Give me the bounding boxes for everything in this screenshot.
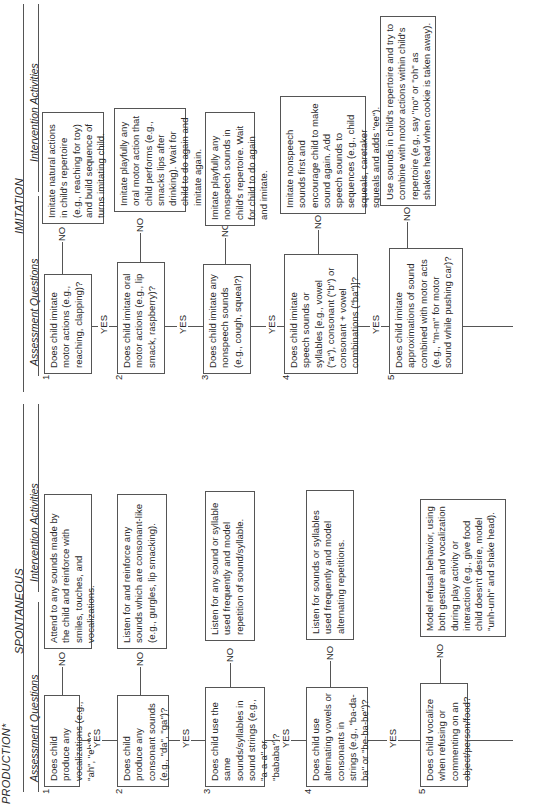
yes-label: YES — [91, 728, 102, 749]
question-number: 4 — [280, 375, 291, 380]
no-label: NO — [312, 214, 323, 230]
spontaneous-question-3: Does child use the same sounds/syllables… — [205, 687, 265, 787]
yes-label: YES — [387, 728, 398, 749]
imitation-question-2: Does child imitate oral motor actions (e… — [117, 262, 165, 374]
imitation-activity-3: Imitate playfully any nonspeech sounds i… — [205, 112, 255, 226]
question-number: 2 — [113, 789, 124, 794]
imitation-question-3: Does child imitate any nonspeech sounds … — [203, 264, 251, 374]
continue-connector — [468, 740, 513, 741]
question-number: 4 — [302, 789, 313, 794]
flowchart-page: PRODUCTION* SPONTANEOUS Assessment Quest… — [0, 0, 543, 804]
section-rule — [23, 404, 24, 792]
spontaneous-question-5: Does child vocalize when refusing or com… — [420, 683, 468, 787]
yes-label: YES — [280, 728, 291, 749]
question-number: 1 — [40, 375, 51, 380]
spontaneous-question-2: Does child produce any consonant sounds … — [117, 695, 169, 787]
spontaneous-question-4: Does child use alternating vowels or con… — [306, 687, 368, 787]
no-label: NO — [224, 647, 235, 663]
imitation-activity-5: Use sounds in child's repertoire and try… — [380, 16, 436, 206]
question-number: 5 — [416, 789, 427, 794]
yes-label: YES — [177, 314, 188, 335]
imitation-question-4: Does child imitate speech sounds or syll… — [284, 254, 358, 374]
no-label: NO — [434, 643, 445, 659]
imitation-question-5: Does child imitate approximations of sou… — [389, 248, 463, 374]
no-label: NO — [401, 206, 412, 222]
yes-label: YES — [370, 314, 381, 335]
page-title: PRODUCTION* — [0, 724, 12, 804]
question-number: 5 — [385, 375, 396, 380]
col-rule — [38, 404, 39, 592]
imitation-activity-2: Imitate playfully any oral motor action … — [114, 108, 186, 212]
col-rule — [38, 4, 39, 192]
imitation-activity-4: Imitate nonspeech sounds first and encou… — [280, 96, 366, 214]
no-label: NO — [56, 651, 67, 667]
question-number: 1 — [40, 789, 51, 794]
spontaneous-question-1: Does child produce any vocalizations (e.… — [44, 695, 80, 787]
col-rule — [38, 602, 39, 792]
no-label: NO — [56, 226, 67, 242]
continue-connector — [463, 326, 513, 327]
imitation-activity-1: Imitate natural actions in child's reper… — [42, 112, 104, 224]
no-label: NO — [134, 651, 145, 667]
yes-label: YES — [180, 728, 191, 749]
spontaneous-activity-1: Attend to any sounds made by the child a… — [44, 494, 92, 649]
question-number: 3 — [201, 789, 212, 794]
section-rule — [23, 4, 24, 392]
question-number: 2 — [113, 375, 124, 380]
spontaneous-activity-5: Model refusal behavior, using both gestu… — [420, 499, 506, 637]
no-label: NO — [134, 217, 145, 233]
imitation-question-1: Does child imitate motor actions (e.g., … — [44, 274, 92, 374]
spontaneous-activity-2: Listen for and reinforce any sounds whic… — [117, 494, 167, 649]
question-number: 3 — [199, 375, 210, 380]
spontaneous-activity-4: Listen for sounds or syllables used freq… — [306, 490, 354, 640]
col-rule — [38, 196, 39, 376]
yes-label: YES — [266, 314, 277, 335]
spontaneous-activity-3: Listen for any sound or syllable used fr… — [205, 491, 255, 641]
yes-label: YES — [98, 314, 109, 335]
no-label: NO — [324, 645, 335, 661]
